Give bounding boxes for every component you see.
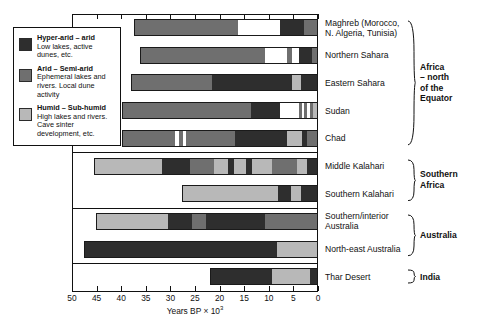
legend-item-arid: Arid – Semi-arid Ephemeral lakes and riv… (19, 65, 115, 99)
x-tick-bottom (97, 286, 98, 291)
aridity-chart-figure: Hyper-arid – arid Low lakes, active dune… (0, 0, 488, 334)
aridity-segment-humid (234, 159, 246, 174)
x-tick-bottom (195, 286, 196, 291)
aridity-segment-arid (135, 20, 238, 35)
row-label: Thar Desert (325, 272, 370, 282)
aridity-segment-arid (186, 131, 234, 146)
x-tick-label: 0 (316, 293, 321, 303)
x-tick-label: 15 (240, 293, 249, 303)
aridity-bar (96, 213, 318, 230)
x-tick-top (72, 14, 73, 19)
aridity-segment-none (280, 103, 299, 118)
x-tick-label: 35 (141, 293, 150, 303)
aridity-segment-hyper-arid (310, 269, 317, 284)
legend-item-text: Arid – Semi-arid Ephemeral lakes and riv… (37, 65, 115, 99)
x-tick-top (318, 14, 319, 19)
aridity-segment-arid (132, 75, 212, 90)
group-brace-icon (407, 214, 416, 257)
group-separator (72, 263, 318, 264)
aridity-segment-hyper-arid (307, 159, 317, 174)
row-label: Southern/interior Australia (325, 211, 389, 231)
row-label: Eastern Sahara (325, 78, 385, 88)
x-tick-top (121, 14, 122, 19)
aridity-bar (122, 102, 318, 119)
legend-item-text: Humid – Sub-humid High lakes and rivers.… (37, 104, 115, 138)
group-separator (72, 152, 318, 153)
aridity-segment-humid (277, 242, 317, 257)
x-axis-title-text: Years BP × 10 (167, 306, 220, 316)
aridity-segment-hyper-arid (280, 20, 304, 35)
aridity-segment-arid (272, 159, 297, 174)
row-label: Northern Sahara (325, 50, 389, 60)
x-tick-bottom (244, 286, 245, 291)
aridity-segment-arid (123, 131, 175, 146)
aridity-segment-hyper-arid (85, 242, 278, 257)
axis-bottom-line (72, 291, 318, 292)
aridity-segment-hyper-arid (235, 131, 288, 146)
x-tick-bottom (318, 286, 319, 291)
group-label: India (420, 272, 440, 283)
legend-item-text: Hyper-arid – arid Low lakes, active dune… (37, 34, 115, 60)
aridity-bar (94, 158, 318, 175)
x-tick-bottom (170, 286, 171, 291)
x-axis-title: Years BP × 103 (72, 305, 318, 316)
aridity-segment-hyper-arid (212, 75, 292, 90)
aridity-segment-hyper-arid (211, 269, 272, 284)
group-brace-icon (407, 20, 416, 146)
x-tick-label: 20 (215, 293, 224, 303)
legend-swatch-arid-icon (19, 69, 32, 82)
aridity-bar (140, 47, 318, 64)
x-tick-label: 30 (166, 293, 175, 303)
x-tick-bottom (269, 286, 270, 291)
x-tick-top (97, 14, 98, 19)
row-label: Sudan (325, 106, 350, 116)
aridity-segment-none (265, 48, 287, 63)
aridity-segment-arid (192, 214, 206, 229)
aridity-segment-humid (183, 186, 278, 201)
aridity-segment-hyper-arid (278, 186, 292, 201)
aridity-segment-humid (272, 269, 310, 284)
row-label: Maghreb (Morocco, N. Algeria, Tunisia) (325, 18, 400, 38)
aridity-segment-humid (297, 159, 307, 174)
aridity-segment-arid (304, 20, 317, 35)
group-label: Australia (420, 230, 457, 241)
group-separator (72, 208, 318, 209)
aridity-bar (131, 74, 318, 91)
aridity-segment-hyper-arid (206, 214, 265, 229)
aridity-segment-hyper-arid (168, 214, 192, 229)
x-tick-bottom (121, 286, 122, 291)
aridity-segment-humid (291, 186, 301, 201)
x-tick-bottom (220, 286, 221, 291)
aridity-segment-hyper-arid (301, 75, 317, 90)
aridity-segment-humid (292, 75, 301, 90)
aridity-segment-humid (97, 214, 168, 229)
aridity-bar (84, 241, 318, 258)
aridity-segment-humid (95, 159, 162, 174)
aridity-segment-hyper-arid (162, 159, 190, 174)
aridity-segment-none (292, 48, 299, 63)
group-brace-icon (407, 159, 416, 202)
aridity-bar (134, 19, 319, 36)
x-tick-label: 5 (291, 293, 296, 303)
x-tick-bottom (293, 286, 294, 291)
legend-item-humid: Humid – Sub-humid High lakes and rivers.… (19, 104, 115, 138)
row-label: Chad (325, 133, 346, 143)
aridity-segment-humid (252, 159, 272, 174)
row-label: Southern Kalahari (325, 189, 394, 199)
x-tick-bottom (146, 286, 147, 291)
legend-item-desc: Ephemeral lakes and rivers. Local dune a… (37, 73, 115, 99)
row-label: Middle Kalahari (325, 161, 384, 171)
legend-item-desc: Low lakes, active dunes, etc. (37, 43, 115, 60)
x-tick-label: 40 (117, 293, 126, 303)
x-axis-title-exponent: 3 (220, 305, 223, 311)
aridity-segment-hyper-arid (251, 103, 281, 118)
aridity-bar (182, 185, 318, 202)
aridity-segment-arid (190, 159, 214, 174)
x-tick-bottom (72, 286, 73, 291)
aridity-segment-arid (123, 103, 251, 118)
aridity-segment-arid (265, 214, 317, 229)
aridity-segment-hyper-arid (301, 186, 317, 201)
aridity-segment-humid (287, 131, 302, 146)
aridity-segment-humid (214, 159, 228, 174)
aridity-segment-arid (141, 48, 266, 63)
